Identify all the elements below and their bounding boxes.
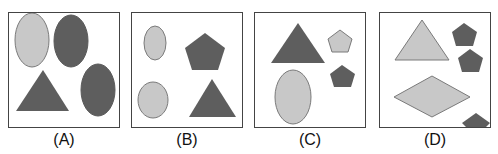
light-pentagon-icon (328, 30, 352, 52)
panel-b-shapes (132, 13, 244, 129)
light-diamond-icon (394, 76, 470, 117)
dark-pentagon-icon (452, 23, 477, 46)
panel-c-shapes (255, 13, 367, 129)
light-ellipse-icon (138, 82, 168, 118)
light-ellipse-icon (15, 13, 49, 67)
label-c: (C) (254, 131, 366, 149)
label-d: (D) (379, 131, 491, 149)
dark-triangle-icon (189, 79, 236, 117)
dark-pentagon-icon (458, 49, 483, 72)
dark-pentagon-icon (462, 113, 490, 127)
panel-a (8, 12, 120, 128)
dark-pentagon-icon (185, 33, 225, 70)
label-b: (B) (131, 131, 243, 149)
light-ellipse-icon (144, 26, 166, 60)
light-ellipse-icon (275, 70, 311, 124)
panel-a-shapes (9, 13, 121, 129)
light-triangle-icon (395, 20, 449, 60)
dark-triangle-icon (16, 70, 69, 111)
panel-d-shapes (380, 13, 492, 129)
panel-b (131, 12, 243, 128)
panel-d (379, 12, 491, 128)
dark-ellipse-icon (81, 64, 115, 116)
dark-triangle-icon (271, 23, 325, 63)
label-a: (A) (8, 131, 120, 149)
dark-ellipse-icon (54, 15, 88, 67)
panel-c (254, 12, 366, 128)
dark-pentagon-icon (330, 65, 355, 87)
